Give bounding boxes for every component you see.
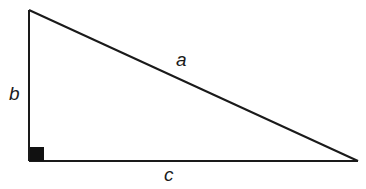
label-a: a bbox=[176, 49, 187, 70]
label-c: c bbox=[164, 164, 174, 185]
right-angle-marker bbox=[30, 147, 44, 161]
triangle-diagram: a b c bbox=[0, 0, 366, 189]
label-b: b bbox=[9, 83, 20, 104]
side-a-line bbox=[29, 10, 358, 161]
